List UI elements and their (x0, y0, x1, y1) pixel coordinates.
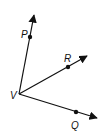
label-v: V (10, 90, 18, 101)
point-r-dot (66, 65, 70, 69)
label-p: P (21, 29, 28, 40)
label-q: Q (71, 120, 79, 131)
ray-vr (19, 56, 87, 94)
angle-diagram: P R Q V (0, 0, 110, 134)
ray-vq (19, 94, 97, 118)
point-q-dot (74, 110, 78, 114)
ray-vp (19, 15, 34, 94)
label-r: R (64, 53, 71, 64)
point-p-dot (28, 35, 32, 39)
